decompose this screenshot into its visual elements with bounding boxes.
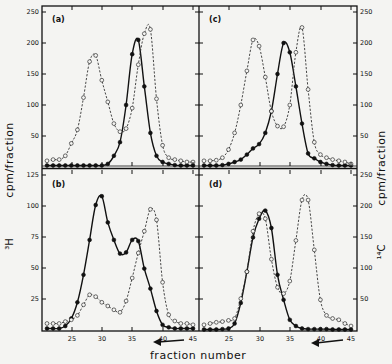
panel-label-b: (b) (52, 180, 65, 189)
svg-text:100: 100 (360, 264, 372, 272)
svg-text:250: 250 (360, 171, 372, 179)
svg-text:200: 200 (360, 202, 372, 210)
svg-text:25: 25 (225, 335, 233, 343)
panel-label-c: (c) (209, 15, 221, 24)
svg-text:35: 35 (128, 335, 136, 343)
svg-text:125: 125 (27, 171, 39, 179)
svg-text:200: 200 (360, 39, 372, 47)
x-axis-title: fraction number (150, 349, 246, 362)
svg-text:35: 35 (286, 335, 294, 343)
svg-text:200: 200 (27, 39, 39, 47)
panel-label-d: (d) (209, 180, 222, 189)
h3-series-b (45, 194, 195, 330)
svg-text:100: 100 (27, 202, 39, 210)
y-right-isotope-label: ¹⁴C (376, 244, 387, 259)
c14-series-d (202, 194, 353, 328)
svg-text:50: 50 (31, 132, 39, 140)
y-right-axis-title: cpm/fraction (375, 130, 388, 206)
svg-text:250: 250 (360, 8, 372, 16)
c14-series-b (45, 207, 195, 326)
panel-frames (42, 6, 357, 331)
y-left-axis-title: cpm/fraction (3, 122, 16, 198)
svg-text:100: 100 (27, 101, 39, 109)
svg-text:50: 50 (31, 264, 39, 272)
svg-text:250: 250 (27, 8, 39, 16)
svg-text:25: 25 (31, 295, 39, 303)
svg-text:30: 30 (256, 335, 264, 343)
h3-series-d (202, 209, 353, 332)
direction-arrow-right (311, 339, 343, 347)
svg-text:45: 45 (189, 335, 197, 343)
svg-text:75: 75 (31, 233, 39, 241)
svg-text:25: 25 (68, 335, 76, 343)
svg-text:150: 150 (27, 70, 39, 78)
h3-series-c (202, 41, 353, 167)
h3-series-a (45, 38, 195, 167)
svg-text:50: 50 (360, 295, 368, 303)
c14-series-c (202, 26, 353, 166)
svg-text:150: 150 (360, 233, 372, 241)
chart-canvas: 2502502002001501501001005050125250100200… (0, 0, 392, 364)
figure: 2502502002001501501001005050125250100200… (0, 0, 392, 364)
direction-arrow-left (153, 338, 184, 346)
y-left-isotope-label: ³H (4, 238, 15, 250)
svg-text:150: 150 (360, 70, 372, 78)
svg-text:100: 100 (360, 101, 372, 109)
svg-text:50: 50 (360, 132, 368, 140)
panel-label-a: (a) (52, 15, 65, 24)
svg-text:30: 30 (98, 335, 106, 343)
svg-text:45: 45 (347, 335, 355, 343)
